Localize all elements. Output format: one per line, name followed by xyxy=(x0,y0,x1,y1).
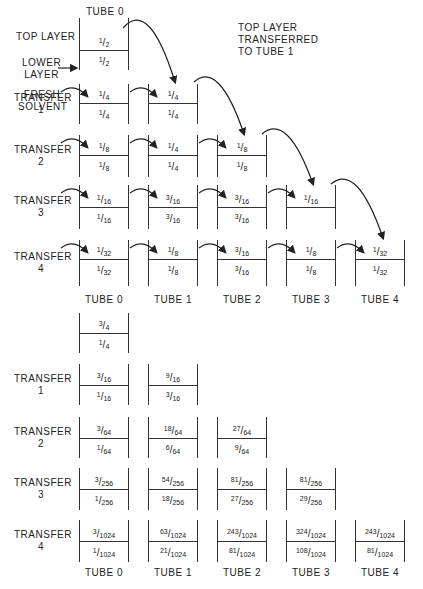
transfer-arrow-icon xyxy=(61,88,87,96)
transfer-arrow-icon xyxy=(130,139,156,147)
transfer-arrow-icon xyxy=(130,88,156,96)
transfer-arrow-icon xyxy=(194,77,244,134)
transfer-arrow-icon xyxy=(130,244,156,252)
transfer-arrow-icon xyxy=(199,244,225,252)
transfer-arrow-icon xyxy=(262,129,313,184)
transfer-arrow-icon xyxy=(331,179,383,238)
transfer-arrows-icon xyxy=(0,0,423,589)
transfer-arrow-icon xyxy=(123,20,175,82)
transfer-arrow-icon xyxy=(61,139,87,147)
transfer-arrow-icon xyxy=(337,244,363,252)
transfer-arrow-icon xyxy=(199,189,225,197)
transfer-arrow-icon xyxy=(130,189,156,197)
transfer-arrow-icon xyxy=(268,244,294,252)
transfer-arrow-icon xyxy=(268,189,294,197)
transfer-arrow-icon xyxy=(61,189,87,197)
transfer-arrow-icon xyxy=(199,139,225,147)
transfer-arrow-icon xyxy=(61,244,87,252)
